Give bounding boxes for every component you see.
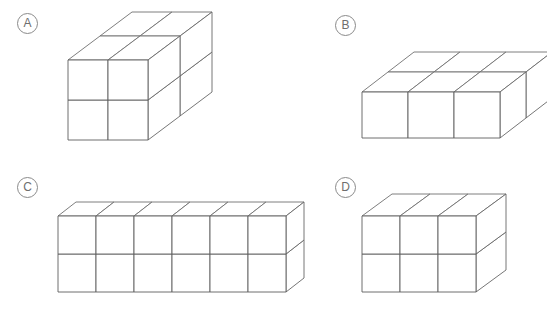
cube-facet — [362, 216, 400, 254]
cube-facet — [400, 254, 438, 292]
cube-facet — [362, 254, 400, 292]
cube-facet — [438, 216, 476, 254]
cube-stack-d[interactable] — [0, 0, 547, 311]
cube-facet — [438, 254, 476, 292]
options-board: ABCD — [0, 0, 547, 311]
cube-facet — [400, 216, 438, 254]
